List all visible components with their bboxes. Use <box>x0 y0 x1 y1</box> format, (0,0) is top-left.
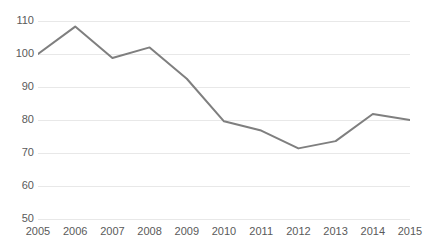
series-polyline <box>38 27 410 149</box>
y-axis-tick-label: 60 <box>0 180 34 191</box>
y-axis-tick-label: 100 <box>0 48 34 59</box>
x-axis-tick-label: 2007 <box>92 224 132 238</box>
y-axis-tick-label: 110 <box>0 15 34 26</box>
x-axis-tick-label: 2011 <box>241 224 281 238</box>
data-line-series <box>38 21 410 219</box>
chart-title <box>0 0 415 10</box>
gridline <box>38 219 410 220</box>
y-axis-tick-labels: 5060708090100110 <box>0 0 34 250</box>
x-axis-tick-label: 2008 <box>130 224 170 238</box>
x-axis-tick-label: 2009 <box>167 224 207 238</box>
y-axis-tick-label: 70 <box>0 147 34 158</box>
y-axis-tick-label: 90 <box>0 81 34 92</box>
x-axis-tick-label: 2006 <box>55 224 95 238</box>
y-axis-tick-label: 80 <box>0 114 34 125</box>
x-axis-tick-label: 2010 <box>204 224 244 238</box>
x-axis-tick-labels: 2005200620072008200920102011201220132014… <box>38 224 410 242</box>
x-axis-tick-label: 2013 <box>316 224 356 238</box>
x-axis-tick-label: 2015 <box>390 224 427 238</box>
x-axis-tick-label: 2012 <box>278 224 318 238</box>
x-axis-tick-label: 2005 <box>18 224 58 238</box>
y-axis-tick-label: 50 <box>0 213 34 224</box>
plot-area <box>38 21 410 219</box>
x-axis-tick-label: 2014 <box>353 224 393 238</box>
